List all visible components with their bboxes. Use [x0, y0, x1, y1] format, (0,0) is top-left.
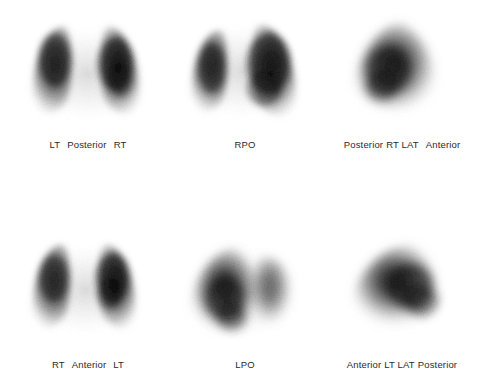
label-left-anterior: RT: [52, 359, 65, 370]
scan-image-lt-lat: [322, 228, 482, 356]
label-right-rt-lat: Anterior: [426, 139, 460, 150]
panel-rpo[interactable]: RPO: [165, 8, 325, 168]
panel-label-rpo: RPO: [165, 138, 325, 151]
panel-lpo[interactable]: LPO: [165, 228, 325, 387]
panel-rt-lat[interactable]: PosteriorRT LATAnterior: [322, 8, 482, 168]
label-center-rpo: RPO: [234, 139, 255, 150]
label-right-posterior: RT: [114, 139, 127, 150]
scan-image-lpo: [165, 228, 325, 356]
panel-posterior[interactable]: LTPosteriorRT: [8, 8, 168, 168]
scan-image-rt-lat: [322, 8, 482, 136]
panel-label-lpo: LPO: [165, 358, 325, 371]
scan-image-posterior: [8, 8, 168, 136]
scintigraphy-sheet: LTPosteriorRT: [0, 0, 490, 387]
panel-anterior[interactable]: RTAnteriorLT: [8, 228, 168, 387]
label-right-anterior: LT: [113, 359, 124, 370]
scan-image-anterior: [8, 228, 168, 356]
panel-label-lt-lat: AnteriorLT LATPosterior: [322, 358, 482, 371]
label-center-rt-lat: RT LAT: [386, 139, 419, 150]
label-left-lt-lat: Anterior: [347, 359, 381, 370]
scan-row-top: LTPosteriorRT: [0, 8, 490, 168]
scan-image-rpo: [165, 8, 325, 136]
label-left-rt-lat: Posterior: [344, 139, 383, 150]
panel-label-rt-lat: PosteriorRT LATAnterior: [322, 138, 482, 151]
label-center-lpo: LPO: [235, 359, 254, 370]
panel-label-posterior: LTPosteriorRT: [8, 138, 168, 151]
panel-lt-lat[interactable]: AnteriorLT LATPosterior: [322, 228, 482, 387]
label-right-lt-lat: Posterior: [418, 359, 457, 370]
label-center-anterior: Anterior: [72, 359, 106, 370]
label-left-posterior: LT: [50, 139, 61, 150]
label-center-lt-lat: LT LAT: [384, 359, 414, 370]
panel-label-anterior: RTAnteriorLT: [8, 358, 168, 371]
scan-row-bottom: RTAnteriorLT LPO: [0, 228, 490, 387]
label-center-posterior: Posterior: [67, 139, 106, 150]
